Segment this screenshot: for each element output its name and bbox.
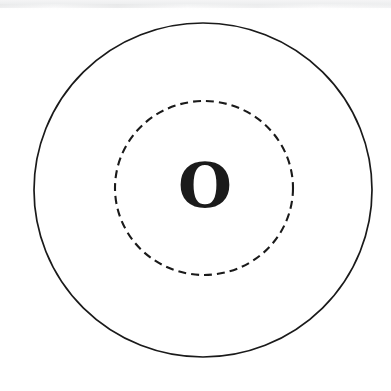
- concentric-circles-figure: [0, 0, 391, 391]
- outer-circle: [34, 23, 372, 357]
- figure-canvas: O: [0, 0, 391, 391]
- inner-dashed-circle: [115, 101, 293, 275]
